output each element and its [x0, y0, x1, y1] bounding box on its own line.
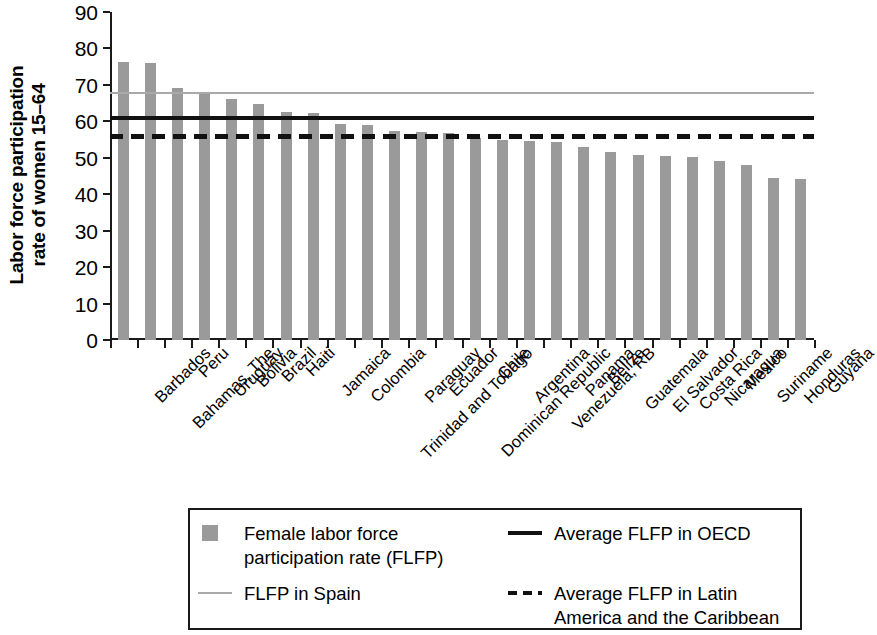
bar [551, 142, 562, 340]
solid-line-swatch-icon [508, 522, 554, 544]
bar [389, 131, 400, 340]
y-tick: 20 [103, 266, 110, 268]
bar [416, 132, 427, 340]
y-axis-title-line-1: Labor force participation [6, 66, 28, 285]
y-axis-title-line-2: rate of women 15–64 [28, 66, 50, 285]
bar [741, 165, 752, 340]
bar [470, 138, 481, 340]
legend-item-flfp-oecd: Average FLFP in OECD [508, 522, 751, 546]
y-tick: 80 [103, 47, 110, 49]
bar [199, 94, 210, 340]
dashed-line-swatch-icon [508, 582, 554, 604]
legend-column-right: Average FLFP in OECD Average FLFP in Lat… [508, 510, 798, 628]
bar [524, 141, 535, 340]
y-tick-label: 40 [75, 184, 98, 205]
plot-area: 0102030405060708090 [110, 12, 814, 340]
bar [497, 140, 508, 340]
y-tick: 40 [103, 193, 110, 195]
chart-legend: Female labor force participation rate (F… [188, 508, 802, 630]
y-tick: 70 [103, 84, 110, 86]
bar [118, 62, 129, 340]
y-tick: 90 [103, 11, 110, 13]
reference-line [110, 134, 814, 139]
bar-series [110, 12, 814, 340]
y-tick-label: 0 [86, 330, 98, 351]
y-tick-label: 20 [75, 257, 98, 278]
legend-item-flfp-lac: Average FLFP in Latin America and the Ca… [508, 582, 779, 629]
y-tick-label: 80 [75, 38, 98, 59]
bar [768, 178, 779, 340]
bar [253, 104, 264, 340]
legend-item-flfp-bar: Female labor force participation rate (F… [198, 522, 443, 569]
reference-line [110, 116, 814, 120]
y-tick: 0 [103, 339, 110, 341]
y-tick: 60 [103, 120, 110, 122]
bar [308, 113, 319, 340]
bar [145, 63, 156, 340]
reference-line [110, 92, 814, 94]
bar [687, 157, 698, 340]
bar [605, 152, 616, 340]
legend-column-left: Female labor force participation rate (F… [198, 510, 498, 628]
legend-label-flfp-bar: Female labor force participation rate (F… [244, 522, 443, 569]
x-axis-labels: BarbadosBahamas, ThePeruUruguayBoliviaBr… [110, 344, 814, 474]
bar-swatch-icon [198, 522, 244, 544]
legend-label-flfp-oecd: Average FLFP in OECD [554, 522, 751, 546]
y-tick-label: 50 [75, 147, 98, 168]
bar [335, 124, 346, 340]
y-tick-label: 70 [75, 74, 98, 95]
x-tick [814, 340, 816, 348]
y-tick-label: 60 [75, 111, 98, 132]
bar [362, 125, 373, 340]
bar [660, 156, 671, 340]
y-tick: 50 [103, 157, 110, 159]
y-tick: 10 [103, 303, 110, 305]
y-axis-title: Labor force participation rate of women … [0, 0, 56, 350]
bar [281, 112, 292, 341]
bar [443, 133, 454, 340]
y-tick-label: 10 [75, 293, 98, 314]
bar [714, 161, 725, 340]
legend-label-flfp-lac: Average FLFP in Latin America and the Ca… [554, 582, 779, 629]
bar [578, 147, 589, 340]
bar [795, 179, 806, 340]
bar [633, 155, 644, 340]
y-tick-label: 90 [75, 2, 98, 23]
legend-item-flfp-spain: FLFP in Spain [198, 582, 361, 606]
y-tick-label: 30 [75, 220, 98, 241]
y-tick: 30 [103, 230, 110, 232]
legend-label-flfp-spain: FLFP in Spain [244, 582, 361, 606]
bar [172, 88, 183, 340]
gray-line-swatch-icon [198, 582, 244, 604]
